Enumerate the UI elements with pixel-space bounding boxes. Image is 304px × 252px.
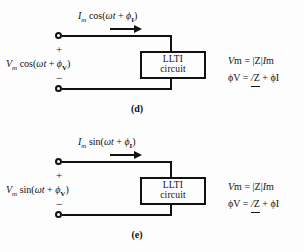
bottom-wire (62, 214, 172, 216)
current-direction-arrow-icon (110, 151, 142, 159)
terminal-top (55, 32, 62, 39)
magnitude-equation: Vm = |Z|Im (228, 178, 279, 195)
current-source-label: Im sin(ωt + ϕI) (78, 135, 136, 151)
terminal-bottom (55, 211, 62, 218)
polarity-minus-label: − (56, 72, 63, 84)
impedance-equations: Vm = |Z|Im ϕV = /Z + ϕI (228, 178, 279, 213)
polarity-minus-label: − (56, 198, 63, 210)
magnitude-equation: Vm = |Z|Im (228, 52, 279, 69)
top-wire-drop (170, 161, 172, 178)
voltage-source-label: Vm cos(ωt + ϕV) (6, 57, 70, 73)
top-wire (62, 35, 172, 37)
llti-circuit-block: LLTI circuit (140, 177, 206, 205)
polarity-plus-label: + (56, 44, 62, 55)
terminal-top (55, 158, 62, 165)
phase-equation: ϕV = /Z + ϕI (228, 195, 279, 213)
phase-equation: ϕV = /Z + ϕI (228, 69, 279, 87)
top-wire-drop (170, 35, 172, 52)
llti-circuit-block: LLTI circuit (140, 51, 206, 79)
llti-label-line2: circuit (160, 191, 186, 201)
panel-d: Im cos(ωt + ϕI) + − Vm cos(ωt + ϕV) (0, 0, 304, 126)
terminal-bottom (55, 85, 62, 92)
voltage-source-label: Vm sin(ωt + ϕV) (6, 183, 69, 199)
current-direction-arrow-icon (110, 25, 142, 33)
panel-caption-d: (d) (0, 103, 304, 114)
top-wire (62, 161, 172, 163)
bottom-wire (62, 88, 172, 90)
impedance-equations: Vm = |Z|Im ϕV = /Z + ϕI (228, 52, 279, 87)
figure-canvas: Im cos(ωt + ϕI) + − Vm cos(ωt + ϕV) (0, 0, 304, 252)
panel-caption-e: (e) (0, 229, 304, 240)
current-source-label: Im cos(ωt + ϕI) (78, 9, 137, 25)
llti-label-line2: circuit (160, 65, 186, 75)
panel-e: Im sin(ωt + ϕI) + − Vm sin(ωt + ϕV) LLTI… (0, 126, 304, 252)
angle-of-z: /Z (251, 195, 260, 213)
polarity-plus-label: + (56, 170, 62, 181)
angle-of-z: /Z (251, 69, 260, 87)
